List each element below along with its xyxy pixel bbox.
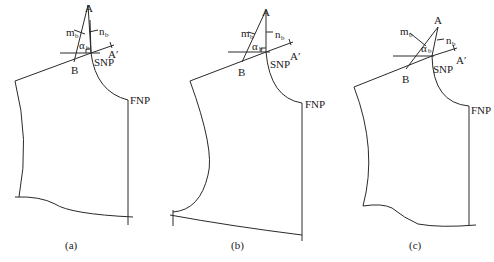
vertical-line [90,20,91,53]
label-alpha: α [421,42,427,54]
label-b: B [238,66,245,78]
shoulder-line [190,52,266,81]
caption-b: (b) [231,239,244,252]
label-snp: SNP [270,58,290,70]
shoulder-extension-line [266,42,293,52]
label-fnp: FNP [130,94,150,106]
label-alpha-sub: b [86,44,90,52]
label-fnp: FNP [305,98,325,110]
label-alpha: α [79,39,85,51]
panel-b: A m b n b α b A′ B SNP FNP (b) [170,6,325,252]
n-leader [437,39,444,40]
panel-a: A m b n b α b A′ B SNP FNP (a) [15,2,150,252]
label-n-sub: b [452,40,456,48]
label-a: A [262,6,270,18]
label-m: m [241,27,250,39]
label-snp: SNP [94,56,114,68]
label-a: A [85,2,93,14]
hem-curve [15,197,133,217]
side-seam-curve [15,81,24,197]
shoulder-line [354,56,432,87]
caption-a: (a) [65,239,78,252]
side-seam-curve [354,87,369,206]
label-m: m [400,25,409,37]
hem-curve [363,205,476,226]
label-alpha-sub: b [428,47,432,55]
label-m-sub: b [409,31,413,39]
label-snp: SNP [433,63,453,75]
label-a-prime: A′ [456,54,466,66]
caption-c: (c) [409,239,422,252]
label-alpha-sub: b [259,45,263,53]
label-b: B [402,73,409,85]
label-a-prime: A′ [290,50,300,62]
hem-curve [170,215,302,235]
label-n-sub: b [281,34,285,42]
label-a: A [434,14,442,26]
pattern-diagram: A m b n b α b A′ B SNP FNP (a) A m b n b… [0,0,494,262]
label-n-sub: b [105,31,109,39]
label-alpha: α [252,40,258,52]
panel-c: A m b n b α b A′ B SNP FNP (c) [354,14,491,252]
label-b: B [71,64,78,76]
side-seam-curve [173,81,210,212]
a-prime-tick [289,39,291,45]
label-m: m [66,26,75,38]
shoulder-line [15,53,91,81]
label-fnp: FNP [471,104,491,116]
shoulder-extension-line [432,48,457,56]
